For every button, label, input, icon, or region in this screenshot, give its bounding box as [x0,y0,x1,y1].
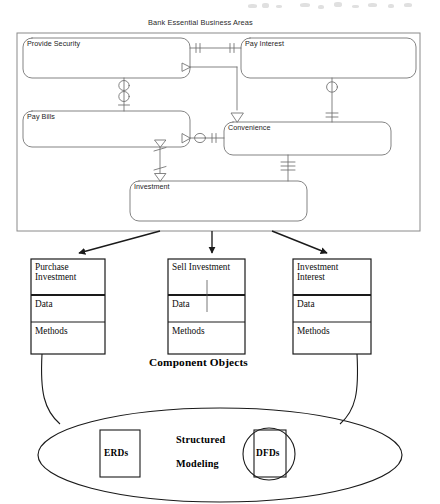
co-title-purchase-investment: Purchase Investment [35,263,76,283]
ba-label-pay-interest: Pay Interest [245,40,284,48]
ba-label-investment: Investment [134,183,170,191]
structured-modeling-word-1: Structured [176,435,225,446]
co-methods-purchase-investment: Methods [35,327,68,337]
dfds-label: DFDs [256,449,280,459]
rel-interest-convenience [326,78,338,122]
structured-modeling-ellipse [38,408,402,502]
co-title-sell-investment: Sell Investment [172,263,230,273]
eba-frame [17,33,420,231]
rel-convenience-investment [281,155,295,181]
rel-security-to-convenience-elbow [182,63,243,122]
connector-left [42,354,60,424]
co-methods-sell-investment: Methods [172,327,205,337]
structured-modeling-word-2: Modeling [176,459,219,470]
component-objects-section-label: Component Objects [149,357,248,369]
ba-label-provide-security: Provide Security [27,40,80,48]
eba-panel-title: Bank Essential Business Areas [148,19,253,27]
ba-label-convenience: Convenience [228,124,271,132]
rel-paybills-investment [154,140,166,181]
arrow-to-purchase-investment [79,231,160,253]
rel-security-paybills [119,78,130,111]
co-methods-investment-interest: Methods [297,327,330,337]
diagram-vector-layer [0,0,440,504]
erds-label: ERDs [104,449,128,459]
arrow-to-investment-interest [272,231,327,253]
rel-security-interest [190,44,241,53]
co-data-purchase-investment: Data [35,300,53,310]
ba-label-pay-bills: Pay Bills [27,113,55,121]
diagram-canvas: Bank Essential Business Areas Provide Se… [0,0,440,504]
co-title-investment-interest: Investment Interest [297,263,338,283]
connector-right [340,354,358,424]
decomposition-arrows [79,231,327,253]
structured-modeling-group [38,408,402,502]
co-data-investment-interest: Data [297,300,315,310]
rel-paybills-convenience [182,133,224,142]
co-data-sell-investment: Data [172,300,190,310]
